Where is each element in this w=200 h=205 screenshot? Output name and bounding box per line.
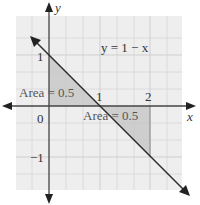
y-axis-arrow-down-icon — [45, 194, 53, 204]
tick-label-x-2: 2 — [145, 89, 152, 104]
tick-label-y-neg1: −1 — [30, 150, 44, 165]
x-axis-label: x — [186, 109, 193, 124]
y-axis-label: y — [53, 0, 61, 15]
area-label-lower: Area = 0.5 — [83, 108, 138, 123]
tick-label-origin: 0 — [37, 111, 44, 126]
tick-label-x-1: 1 — [96, 89, 103, 104]
graph-diagram: y x y = 1 − x 1 −1 0 1 2 Area = 0.5 Area… — [0, 0, 200, 205]
x-axis-arrow-left-icon — [2, 102, 12, 110]
y-axis-arrow-up-icon — [45, 2, 53, 12]
tick-label-y-1: 1 — [37, 49, 44, 64]
equation-label: y = 1 − x — [101, 40, 149, 55]
area-label-upper: Area = 0.5 — [19, 85, 74, 100]
